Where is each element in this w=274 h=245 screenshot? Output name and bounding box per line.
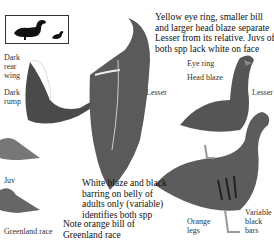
- label-variable-black-bars: Variable black bars: [245, 208, 274, 235]
- label-juv: Juv: [4, 176, 15, 185]
- label-lesser-right: Lesser: [252, 88, 273, 97]
- label-head-blaze: Head blaze: [187, 73, 223, 82]
- label-dark-rump: Dark rump: [4, 88, 30, 106]
- label-greenland-race: Greenland race: [4, 227, 53, 236]
- label-lesser-left: Lesser: [146, 88, 167, 97]
- label-orange-legs: Orange legs: [187, 217, 213, 235]
- note-greenland-bill: Note orange bill of Greenland race: [63, 219, 148, 240]
- note-identification: Yellow eye ring, smaller bill and larger…: [155, 12, 274, 54]
- label-dark-rear-wing: Dark rear wing: [4, 53, 30, 80]
- note-belly-barring: White blaze and black barring on belly o…: [82, 178, 172, 220]
- label-eye-ring: Eye ring: [187, 59, 214, 68]
